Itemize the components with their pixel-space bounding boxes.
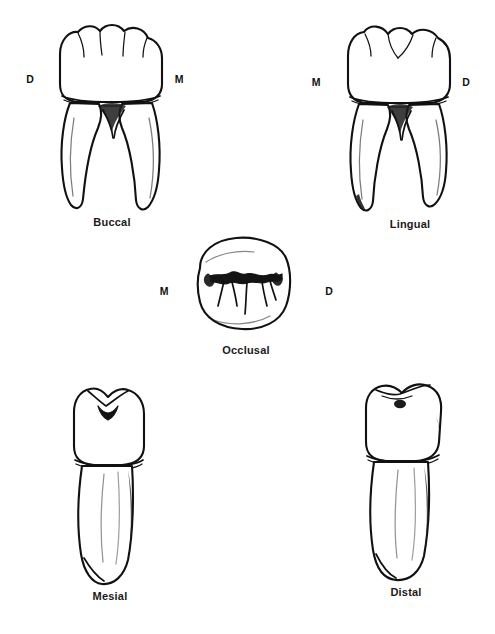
occlusal-tooth-drawing [184,232,304,347]
lingual-view-label: Lingual [390,218,431,230]
lingual-mesial-marker: M [312,76,321,88]
distal-view-label: Distal [390,586,421,598]
mesial-view: Mesial [48,378,188,593]
distal-view: Distal [338,376,478,591]
occlusal-view-label: Occlusal [222,344,269,356]
lingual-view: Lingual [328,18,478,218]
mesial-tooth-drawing [48,378,188,593]
occlusal-distal-marker: D [325,285,333,297]
buccal-mesial-marker: M [175,73,184,85]
buccal-view-label: Buccal [93,216,130,228]
lingual-distal-marker: D [462,76,470,88]
buccal-tooth-drawing [40,18,190,218]
buccal-distal-marker: D [26,73,34,85]
lingual-tooth-drawing [328,18,478,218]
buccal-view: Buccal [40,18,190,218]
occlusal-view: Occlusal [184,232,304,347]
occlusal-mesial-marker: M [160,285,169,297]
tooth-anatomy-plate: Buccal D M [0,0,495,634]
mesial-view-label: Mesial [93,590,128,602]
distal-tooth-drawing [338,376,478,591]
